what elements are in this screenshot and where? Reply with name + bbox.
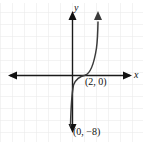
function-curve [71, 11, 103, 126]
x-axis-label: x [134, 70, 138, 80]
x-axis [8, 72, 132, 80]
y-axis [69, 11, 77, 133]
x-intercept-label: (2, 0) [85, 77, 107, 87]
plot-area [0, 0, 143, 142]
graph-figure: f(x) = ... as x → ... x [0, 0, 143, 142]
y-intercept-label: (0, −8) [73, 127, 100, 137]
y-axis-label: y [74, 3, 78, 13]
